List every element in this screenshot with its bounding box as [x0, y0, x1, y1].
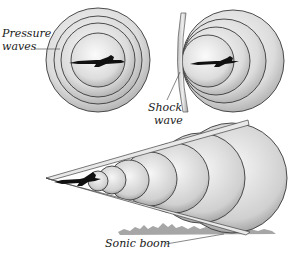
- sonic-boom-label: Sonic boom: [105, 237, 170, 250]
- shock-wave-label: Shock wave: [148, 101, 183, 127]
- supersonic-cone-group: [46, 120, 287, 235]
- sonic-waves-group: [177, 10, 284, 112]
- shock-wave-leader-line: [167, 72, 180, 100]
- shock-wave-label-line2: wave: [148, 114, 183, 127]
- pressure-waves-label-line2: waves: [2, 40, 51, 53]
- shock-wave-label-line1: Shock: [148, 101, 183, 114]
- sonic-boom-label-text: Sonic boom: [105, 237, 170, 250]
- pressure-waves-label: Pressure waves: [2, 27, 51, 53]
- sonic-boom-leader-line: [166, 234, 224, 244]
- subsonic-waves-group: [46, 8, 150, 112]
- pressure-waves-label-line1: Pressure: [2, 27, 51, 40]
